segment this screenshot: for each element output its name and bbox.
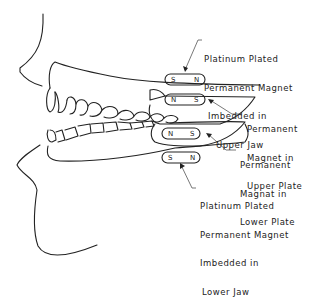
upper-face-profile <box>20 14 43 86</box>
arrow-upper-jaw <box>183 66 188 72</box>
leader-lower-jaw <box>181 165 196 188</box>
label-line: Permanent Magnet <box>200 231 289 241</box>
lower-jaw-magnet-left-pole: S <box>168 154 173 162</box>
label-line: Platinum Plated <box>200 202 289 212</box>
upper-plate-magnet-right-pole: S <box>194 96 199 104</box>
lower-jaw-magnet-right-pole: N <box>190 154 195 162</box>
leader-upper-jaw <box>185 40 202 70</box>
lower-teeth <box>47 121 154 142</box>
lower-plate-magnet-left-pole: N <box>168 130 173 138</box>
lower-plate-magnet-right-pole: S <box>190 130 195 138</box>
label-line: Platinum Plated <box>204 55 293 65</box>
upper-plate-flange <box>150 89 165 100</box>
label-line: Permanent Magnet <box>204 84 293 94</box>
label-line: Lower Jaw <box>200 288 289 298</box>
lower-face-profile <box>17 145 97 255</box>
upper-jaw-magnet-right-pole: N <box>194 76 199 84</box>
upper-plate-magnet-left-pole: N <box>171 96 176 104</box>
upper-teeth <box>47 88 178 123</box>
label-line: Permanent <box>247 125 302 135</box>
upper-jaw-magnet-left-pole: S <box>171 76 176 84</box>
label-line: Permanent <box>240 161 295 171</box>
label-line: Imbedded in <box>200 259 289 269</box>
label-lower-jaw-magnet: Platinum Plated Permanent Magnet Imbedde… <box>200 183 289 301</box>
